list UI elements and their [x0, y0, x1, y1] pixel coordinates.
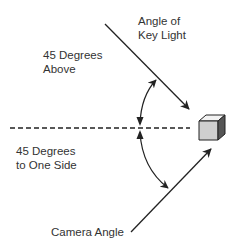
camera-angle-label: Camera Angle	[51, 225, 124, 239]
camera-angle-line	[131, 149, 211, 232]
arc-arrowhead-down	[137, 117, 144, 126]
side-label: 45 Degrees to One Side	[16, 144, 77, 172]
key-light-label: Angle of Key Light	[138, 14, 186, 42]
subject-cube	[199, 115, 225, 140]
lighting-diagram	[0, 0, 238, 249]
lower-angle-arc	[140, 132, 168, 188]
above-label: 45 Degrees Above	[43, 48, 102, 76]
arc-arrowhead-up	[137, 130, 144, 139]
